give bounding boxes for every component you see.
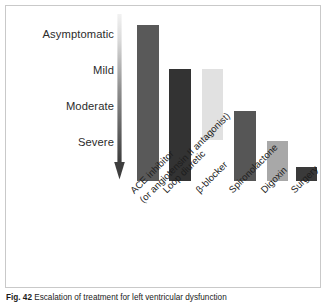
y-axis-label-moderate: Moderate: [66, 100, 114, 112]
severity-arrow-icon: [114, 14, 125, 180]
y-axis-label-severe: Severe: [78, 136, 114, 148]
y-axis-label-asymptomatic: Asymptomatic: [43, 28, 114, 40]
chart-plot-area: Asymptomatic Mild Moderate Severe: [6, 6, 320, 287]
x-axis-label-beta-blocker: β-blocker: [194, 160, 230, 196]
figure-frame: Asymptomatic Mild Moderate Severe: [5, 5, 321, 288]
figure-caption: Fig. 42 Escalation of treatment for left…: [6, 293, 324, 302]
x-axis-label-beta-blocker-text: β-blocker: [194, 160, 230, 196]
y-axis-label-mild: Mild: [93, 64, 114, 76]
figure-caption-label: Fig. 42: [6, 293, 32, 302]
bar-ace-inhibitor: [137, 25, 159, 181]
figure-caption-text: Escalation of treatment for left ventric…: [34, 293, 227, 302]
